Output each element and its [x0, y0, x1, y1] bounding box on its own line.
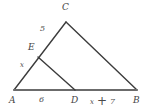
- vertex-label-a: A: [9, 96, 16, 105]
- vertex-label-b: B: [133, 96, 140, 105]
- geometry-figure: C E A D B 5 x 6 x + 7: [0, 0, 147, 112]
- measure-db-value: 7: [110, 98, 115, 106]
- measure-label-ae: x: [20, 62, 24, 69]
- measure-label-db: x + 7: [90, 96, 115, 108]
- vertex-label-d: D: [71, 96, 78, 105]
- measure-label-ad: 6: [39, 96, 44, 104]
- vertex-label-c: C: [62, 3, 69, 12]
- measure-label-ec: 5: [40, 25, 45, 33]
- segment-ed: [38, 57, 75, 90]
- vertex-label-e: E: [28, 43, 35, 52]
- segment-cb: [66, 22, 137, 90]
- plus-icon: +: [97, 95, 107, 107]
- measure-db-term: x: [90, 99, 94, 106]
